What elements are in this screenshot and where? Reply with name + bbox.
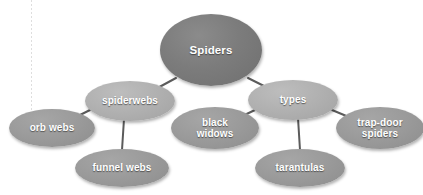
node-tarantulas-label: tarantulas — [272, 162, 329, 173]
node-tarantulas[interactable]: tarantulas — [255, 149, 345, 187]
node-orb-webs-label: orb webs — [26, 122, 79, 133]
node-types[interactable]: types — [248, 80, 338, 120]
node-funnel-webs[interactable]: funnel webs — [75, 149, 169, 187]
types-to-tarantulas — [298, 118, 300, 150]
node-spiderwebs[interactable]: spiderwebs — [85, 81, 175, 121]
node-funnel-webs-label: funnel webs — [89, 162, 156, 173]
node-trap-door-spiders[interactable]: trap-door spiders — [336, 107, 423, 149]
node-black-widows[interactable]: black widows — [171, 107, 259, 149]
node-types-label: types — [276, 94, 311, 105]
dotted-guide-line — [31, 0, 32, 112]
node-black-widows-label: black widows — [193, 117, 238, 139]
node-trap-door-spiders-label: trap-door spiders — [353, 117, 406, 139]
node-spiders[interactable]: Spiders — [160, 14, 262, 86]
node-orb-webs[interactable]: orb webs — [9, 109, 95, 147]
node-spiders-label: Spiders — [186, 44, 237, 57]
node-spiderwebs-label: spiderwebs — [98, 95, 162, 106]
concept-map-canvas: Spiders spiderwebs types orb webs funnel… — [0, 0, 423, 195]
spiderwebs-to-funnel-webs — [122, 119, 124, 150]
